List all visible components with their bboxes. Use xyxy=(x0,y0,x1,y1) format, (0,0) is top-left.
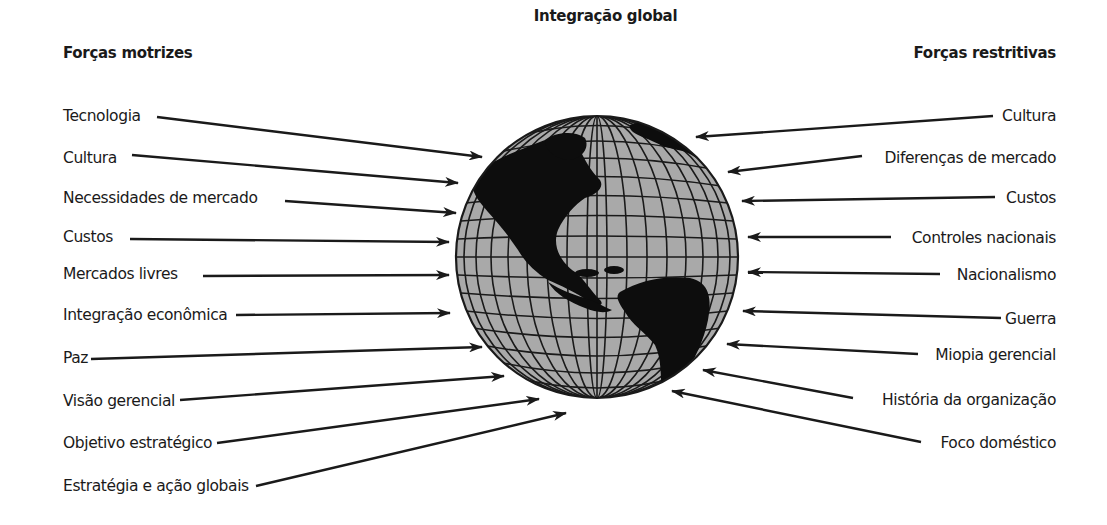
arrow-right-icon xyxy=(236,313,450,315)
arrow-right-icon xyxy=(130,239,449,242)
arrow-right-icon xyxy=(132,155,458,183)
diagram-canvas xyxy=(0,0,1107,525)
arrow-right-icon xyxy=(203,275,449,276)
arrow-left-icon xyxy=(742,197,995,201)
arrow-left-icon xyxy=(743,311,1001,318)
arrow-right-icon xyxy=(157,117,482,157)
arrow-left-icon xyxy=(748,272,940,274)
arrow-right-icon xyxy=(217,399,539,443)
arrow-left-icon xyxy=(703,370,853,398)
globe-icon xyxy=(456,114,738,399)
arrow-right-icon xyxy=(180,376,504,400)
arrow-right-icon xyxy=(256,413,566,486)
arrow-left-icon xyxy=(728,156,862,172)
arrow-right-icon xyxy=(285,201,456,213)
arrow-left-icon xyxy=(696,116,993,137)
arrow-left-icon xyxy=(727,344,918,354)
arrow-left-icon xyxy=(672,391,921,442)
arrow-right-icon xyxy=(91,347,482,359)
